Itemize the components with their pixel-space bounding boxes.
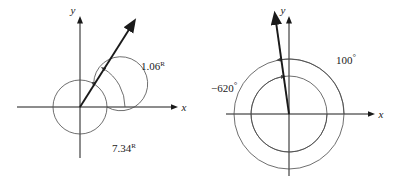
positive-degree-angle-value: 100 (336, 54, 353, 66)
y-axis-label-right: y (280, 4, 286, 16)
positive-degree-angle-unit: ° (353, 52, 357, 62)
figure-background (0, 0, 411, 191)
coterminal-angles-figure: x y 1.06R 7.34R x y 100° −620° (0, 0, 411, 191)
y-axis-label-left: y (70, 4, 76, 16)
negative-degree-angle-unit: ° (234, 80, 238, 90)
negative-degree-angle-label: −620° (211, 80, 238, 94)
x-axis-label-left: x (181, 101, 187, 113)
positive-radian-angle-unit: R (160, 60, 165, 68)
negative-degree-angle-value: −620 (211, 82, 234, 94)
coterminal-radian-angle-value: 7.34 (112, 142, 132, 154)
positive-radian-angle-value: 1.06 (141, 60, 161, 72)
coterminal-radian-angle-unit: R (131, 142, 136, 150)
x-axis-label-right: x (378, 108, 384, 120)
